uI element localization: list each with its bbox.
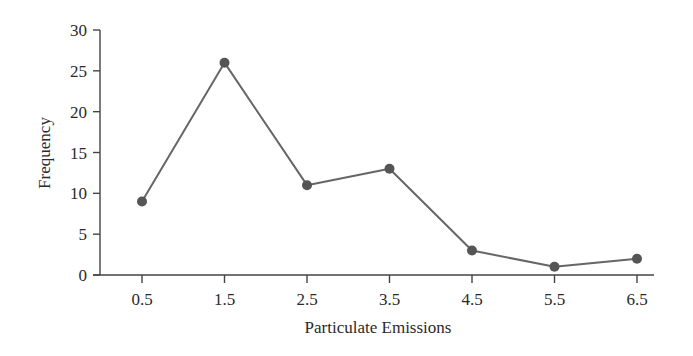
y-tick-label: 25	[70, 62, 87, 81]
data-point-marker	[550, 262, 560, 272]
data-point-marker	[137, 197, 147, 207]
x-tick-label: 0.5	[131, 290, 152, 309]
x-tick-label: 3.5	[379, 290, 400, 309]
data-point-marker	[302, 180, 312, 190]
y-tick-label: 10	[70, 184, 87, 203]
data-point-marker	[632, 254, 642, 264]
y-tick-label: 15	[70, 144, 87, 163]
y-tick-label: 20	[70, 103, 87, 122]
x-tick-label: 2.5	[296, 290, 317, 309]
data-point-marker	[467, 246, 477, 256]
x-axis: 0.51.52.53.54.55.56.5	[93, 275, 654, 309]
x-tick-label: 6.5	[626, 290, 647, 309]
x-tick-label: 4.5	[461, 290, 482, 309]
y-tick-label: 30	[70, 21, 87, 40]
y-tick-label: 0	[79, 266, 88, 285]
x-axis-title: Particulate Emissions	[305, 318, 452, 337]
x-tick-label: 1.5	[214, 290, 235, 309]
frequency-polygon-chart: 051015202530 0.51.52.53.54.55.56.5 Parti…	[0, 0, 693, 356]
y-axis: 051015202530	[70, 21, 100, 285]
data-series	[137, 58, 642, 272]
data-point-marker	[220, 58, 230, 68]
data-point-marker	[385, 164, 395, 174]
x-tick-label: 5.5	[544, 290, 565, 309]
y-axis-title: Frequency	[35, 117, 54, 189]
y-tick-label: 5	[79, 225, 88, 244]
